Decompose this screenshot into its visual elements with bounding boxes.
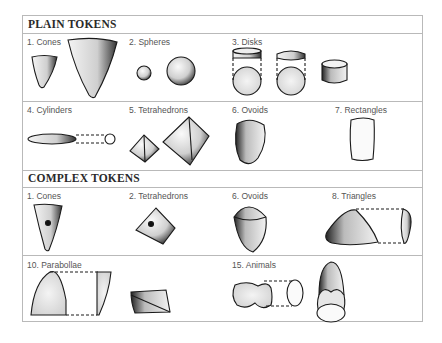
cone-large-icon — [68, 38, 117, 97]
token-illustrations — [0, 0, 442, 343]
sphere-large-icon — [167, 57, 195, 85]
tetrahedron-large-icon — [163, 117, 209, 165]
tetrahedron-small-icon — [130, 135, 159, 162]
parabola-icon — [31, 272, 170, 315]
disk-icon — [277, 51, 305, 95]
animal-head-icon — [317, 262, 345, 322]
disk-icon — [233, 48, 261, 95]
disk-thick-icon — [322, 60, 347, 83]
triangle-icon — [326, 209, 411, 245]
ovoid-icon — [236, 120, 266, 163]
cone-small-icon — [32, 56, 57, 88]
sphere-small-icon — [137, 66, 151, 80]
cylinder-icon — [28, 134, 115, 144]
ovoid-incised-icon — [234, 207, 266, 252]
rectangle-icon — [350, 118, 374, 161]
cone-punctated-icon — [34, 204, 62, 251]
tetrahedron-punctated-icon — [136, 208, 175, 244]
animal-icon — [233, 280, 303, 308]
